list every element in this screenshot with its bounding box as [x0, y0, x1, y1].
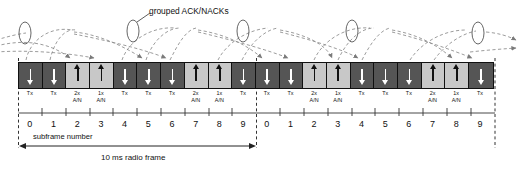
subframe-number: 0 — [18, 118, 42, 131]
subframe-type-label: Tx — [279, 90, 303, 107]
uplink-subframe-block — [445, 63, 469, 88]
uplink-subframe-block — [422, 63, 446, 88]
subframe-type-label: Tx — [468, 90, 492, 107]
subframe-type-label: Tx — [18, 90, 42, 107]
subframe-number: 2 — [302, 118, 326, 131]
subframe-type-label: 1xA/N — [89, 90, 113, 107]
downlink-subframe-block — [161, 63, 185, 88]
radio-frame-measure-arrow — [19, 143, 256, 149]
subframe-type-label: 2xA/N — [302, 90, 326, 107]
subframe-number: 3 — [326, 118, 350, 131]
subframe-type-label: Tx — [42, 90, 66, 107]
subframe-number: 6 — [160, 118, 184, 131]
subframe-type-label-line2: A/N — [65, 97, 89, 104]
subframe-type-label: Tx — [255, 90, 279, 107]
uplink-subframe-block — [90, 63, 114, 88]
subframe-type-label-line2: A/N — [444, 97, 468, 104]
subframe-type-label: Tx — [113, 90, 137, 107]
subframe-number-row: 01234567890123456789 — [18, 118, 492, 131]
subframe-number: 8 — [444, 118, 468, 131]
subframe-type-label-line1: Tx — [51, 90, 57, 96]
subframe-number: 4 — [113, 118, 137, 131]
subframe-type-label-line2: A/N — [302, 97, 326, 104]
downlink-subframe-block — [114, 63, 138, 88]
subframe-type-label-line1: 1x — [453, 90, 459, 96]
subframe-type-label-line1: Tx — [27, 90, 33, 96]
downlink-subframe-block — [398, 63, 422, 88]
subframe-type-label-line2: A/N — [89, 97, 113, 104]
grouped-ack-nacks-label: grouped ACK/NACKs — [149, 6, 229, 16]
subframe-type-label-line1: 1x — [216, 90, 222, 96]
subframe-number: 1 — [279, 118, 303, 131]
subframe-type-label: 1xA/N — [208, 90, 232, 107]
subframe-number: 8 — [208, 118, 232, 131]
uplink-subframe-block — [66, 63, 90, 88]
subframe-number: 6 — [397, 118, 421, 131]
downlink-subframe-block — [256, 63, 280, 88]
subframe-number: 5 — [373, 118, 397, 131]
subframe-number: 1 — [42, 118, 66, 131]
subframe-label-row: TxTx2xA/N1xA/NTxTxTx2xA/N1xA/NTxTxTx2xA/… — [18, 90, 492, 107]
downlink-subframe-block — [351, 63, 375, 88]
subframe-number: 7 — [421, 118, 445, 131]
subframe-type-label-line2: A/N — [208, 97, 232, 104]
subframe-number: 9 — [231, 118, 255, 131]
subframe-type-label: Tx — [160, 90, 184, 107]
downlink-subframe-block — [280, 63, 304, 88]
subframe-type-label: 1xA/N — [444, 90, 468, 107]
radio-frame-duration-label: 10 ms radio frame — [101, 153, 165, 162]
subframe-type-label: 2xA/N — [421, 90, 445, 107]
subframe-type-label-line1: 2x — [74, 90, 80, 96]
subframe-number: 9 — [468, 118, 492, 131]
subframe-type-label: Tx — [136, 90, 160, 107]
subframe-type-label-line1: Tx — [122, 90, 128, 96]
subframe-type-label-line1: 1x — [335, 90, 341, 96]
subframe-number: 0 — [255, 118, 279, 131]
downlink-subframe-block — [19, 63, 43, 88]
uplink-subframe-block — [185, 63, 209, 88]
subframe-type-label-line1: Tx — [240, 90, 246, 96]
subframe-type-label-line1: Tx — [287, 90, 293, 96]
subframe-number: 3 — [89, 118, 113, 131]
grouped-ack-nack-ellipse — [19, 20, 484, 44]
downlink-subframe-block — [43, 63, 67, 88]
subframe-type-label-line1: 2x — [430, 90, 436, 96]
subframe-number: 2 — [65, 118, 89, 131]
subframe-type-label-line2: A/N — [184, 97, 208, 104]
subframe-type-label-line1: Tx — [169, 90, 175, 96]
subframe-block-row — [18, 62, 494, 89]
subframe-type-label: 2xA/N — [65, 90, 89, 107]
subframe-type-label-line1: Tx — [406, 90, 412, 96]
subframe-number: 4 — [350, 118, 374, 131]
subframe-type-label-line2: A/N — [421, 97, 445, 104]
subframe-type-label-line2: A/N — [326, 97, 350, 104]
uplink-subframe-block — [327, 63, 351, 88]
uplink-subframe-block — [303, 63, 327, 88]
subframe-type-label-line1: Tx — [358, 90, 364, 96]
subframe-type-label: 1xA/N — [326, 90, 350, 107]
subframe-type-label-line1: Tx — [382, 90, 388, 96]
subframe-type-label-line1: Tx — [477, 90, 483, 96]
subframe-type-label: Tx — [397, 90, 421, 107]
subframe-type-label: Tx — [350, 90, 374, 107]
subframe-number: 7 — [184, 118, 208, 131]
downlink-subframe-block — [374, 63, 398, 88]
subframe-type-label-line1: 2x — [311, 90, 317, 96]
subframe-type-label-line1: Tx — [145, 90, 151, 96]
subframe-type-label: Tx — [373, 90, 397, 107]
subframe-number: 5 — [136, 118, 160, 131]
downlink-subframe-block — [469, 63, 493, 88]
subframe-type-label: Tx — [231, 90, 255, 107]
downlink-subframe-block — [232, 63, 256, 88]
uplink-subframe-block — [209, 63, 233, 88]
subframe-type-label-line1: 2x — [193, 90, 199, 96]
downlink-subframe-block — [137, 63, 161, 88]
subframe-type-label-line1: Tx — [264, 90, 270, 96]
subframe-type-label-line1: 1x — [98, 90, 104, 96]
harq-timing-diagram: grouped ACK/NACKs TxTx2xA/N1xA/NTxTxTx2x… — [0, 0, 518, 174]
subframe-type-label: 2xA/N — [184, 90, 208, 107]
subframe-number-axis-label: subframe number — [33, 132, 93, 141]
